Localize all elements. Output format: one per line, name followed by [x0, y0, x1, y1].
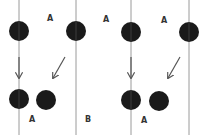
diagram-canvas: A A A A B A — [0, 0, 202, 135]
bottom-circle-2 — [36, 90, 56, 110]
top-label-2: A — [103, 15, 110, 24]
bottom-label-3: A — [141, 116, 148, 125]
arrow-4 — [168, 57, 180, 78]
arrow-2 — [53, 57, 65, 78]
top-label-3: A — [161, 16, 168, 25]
circles — [9, 21, 199, 111]
bottom-label-2: B — [85, 115, 91, 124]
bottom-circle-4 — [149, 91, 169, 111]
top-label-1: A — [47, 14, 54, 23]
arrows — [19, 57, 180, 78]
bottom-label-1: A — [29, 115, 36, 124]
